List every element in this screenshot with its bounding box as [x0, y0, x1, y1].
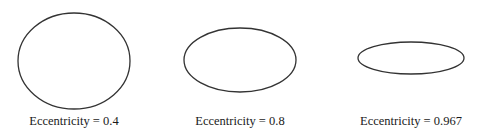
- label-eccentricity-0-4: Eccentricity = 0.4: [29, 114, 118, 129]
- ellipse-e0967: [358, 42, 464, 74]
- ellipse-e04: [18, 13, 130, 109]
- label-eccentricity-0-967: Eccentricity = 0.967: [360, 114, 462, 129]
- ellipse-e08: [184, 28, 296, 92]
- label-eccentricity-0-8: Eccentricity = 0.8: [195, 114, 284, 129]
